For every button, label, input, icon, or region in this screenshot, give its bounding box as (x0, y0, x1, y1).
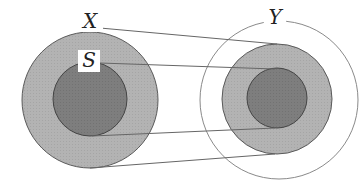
image-of-s-circle (247, 68, 307, 128)
subset-s-circle (53, 62, 127, 136)
label-y-text: Y (268, 5, 283, 29)
label-x: X (78, 9, 103, 33)
label-y: Y (264, 5, 286, 29)
label-s-text: S (82, 48, 96, 72)
label-s: S (78, 48, 100, 72)
set-mapping-diagram: X S Y (0, 0, 363, 190)
set-y-group (200, 21, 358, 179)
label-x-text: X (81, 9, 98, 33)
